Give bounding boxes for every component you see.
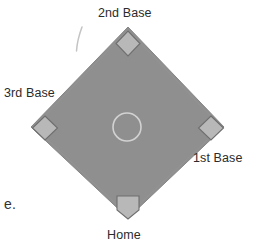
home-plate-label: Home: [107, 229, 141, 243]
cropped-text-fragment: e.: [4, 197, 16, 212]
diamond-diagram-canvas: [0, 0, 253, 246]
second-base-label: 2nd Base: [98, 7, 152, 21]
baseball-diamond-figure: 2nd Base 3rd Base 1st Base Home e.: [0, 0, 253, 246]
third-base-label: 3rd Base: [4, 87, 55, 101]
first-base-label: 1st Base: [193, 152, 242, 166]
